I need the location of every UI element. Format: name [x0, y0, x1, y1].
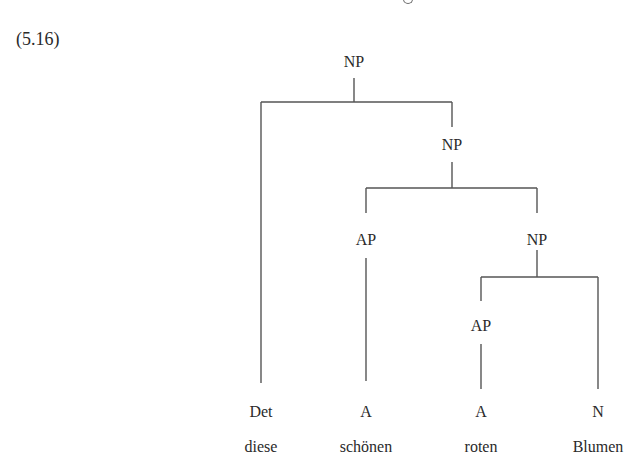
tree-node-n: N: [592, 403, 604, 421]
tree-node-ap: AP: [356, 231, 376, 249]
tree-node-np-root: NP: [344, 53, 364, 71]
tree-word-schoenen: schönen: [340, 438, 392, 456]
tree-word-blumen: Blumen: [573, 438, 624, 456]
tree-node-det: Det: [249, 403, 272, 421]
tree-word-roten: roten: [465, 438, 498, 456]
tree-node-ap: AP: [471, 317, 491, 335]
tree-node-a: A: [360, 403, 372, 421]
tree-node-np: NP: [527, 231, 547, 249]
tree-node-np: NP: [442, 136, 462, 154]
tree-word-diese: diese: [245, 438, 278, 456]
tree-node-a: A: [475, 403, 487, 421]
